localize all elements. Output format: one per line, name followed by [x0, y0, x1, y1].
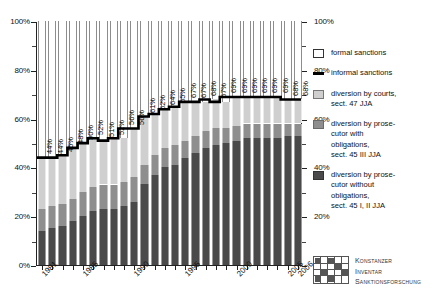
legend-label: informal sanctions [331, 68, 392, 78]
x-axis-tick [277, 265, 278, 270]
x-axis-tick [73, 265, 74, 270]
x-axis-tick [175, 265, 176, 270]
legend-item-with[interactable]: diversion by prose-cutor withobligations… [313, 119, 445, 160]
y-axis-tick [302, 71, 307, 72]
legend-swatch-courts-icon [313, 90, 324, 99]
y-axis-left-tick-label: 0% [0, 261, 30, 270]
y-axis-left-tick-label: 80% [0, 66, 30, 75]
y-axis-left-tick-label: 60% [0, 115, 30, 124]
x-axis-tick [267, 265, 268, 270]
legend-label: diversion by prose-cutor withoutobligati… [331, 170, 395, 211]
legend-label: diversion by courts,sect. 47 JJA [331, 89, 396, 110]
legend-swatch-with-icon [313, 120, 324, 129]
legend-item-courts[interactable]: diversion by courts,sect. 47 JJA [313, 89, 445, 110]
legend-item-informal[interactable]: informal sanctions [313, 68, 445, 78]
x-axis-tick [155, 265, 156, 270]
x-axis-tick [206, 265, 207, 270]
y-axis-left-tick-label: 20% [0, 212, 30, 221]
x-axis-tick [114, 265, 115, 270]
y-axis-left-tick-label: 40% [0, 163, 30, 172]
x-axis-ticks [37, 22, 301, 265]
watermark-line-3: Sanktionsforschung [355, 277, 421, 288]
y-axis-minor-tick [302, 242, 306, 243]
watermark-line-1: Konstanzer [355, 256, 421, 267]
legend-item-formal[interactable]: formal sanctions [313, 48, 445, 58]
legend-swatch-without-icon [313, 171, 324, 180]
y-axis-right-tick-label: 100% [314, 17, 348, 26]
x-axis-tick [124, 265, 125, 270]
x-axis-tick [165, 265, 166, 270]
y-axis-tick [302, 22, 307, 23]
y-axis-tick [31, 266, 36, 267]
legend-swatch-informal-icon [313, 72, 324, 75]
y-axis-minor-tick [302, 46, 306, 47]
legend-label: diversion by prose-cutor withobligations… [331, 119, 395, 160]
y-axis-minor-tick [302, 144, 306, 145]
chart-root: 100%80%60%40%20%0% 100%80%60%40%20%0% 44… [0, 0, 447, 307]
y-axis-minor-tick [302, 193, 306, 194]
chart-legend: formal sanctionsinformal sanctionsdivers… [313, 48, 445, 221]
x-axis-tick [257, 265, 258, 270]
legend-item-without[interactable]: diversion by prose-cutor withoutobligati… [313, 170, 445, 211]
legend-swatch-formal-icon [313, 49, 324, 58]
x-axis-tick [226, 265, 227, 270]
x-axis-tick [216, 265, 217, 270]
plot-area: 44%44%45%48%50%52%51%52%56%56%61%62%64%6… [36, 22, 302, 266]
y-axis-left-tick-label: 100% [0, 17, 30, 26]
legend-label: formal sanctions [331, 48, 386, 58]
x-axis-tick [104, 265, 105, 270]
y-axis-tick [302, 120, 307, 121]
y-axis-tick [302, 168, 307, 169]
x-axis-tick [63, 265, 64, 270]
konstanzer-logo-icon [313, 256, 349, 284]
watermark-line-2: Inventar [355, 267, 421, 278]
watermark: Konstanzer Inventar Sanktionsforschung [313, 256, 421, 288]
line-value-label: 68% [301, 81, 310, 96]
y-axis-tick [302, 217, 307, 218]
